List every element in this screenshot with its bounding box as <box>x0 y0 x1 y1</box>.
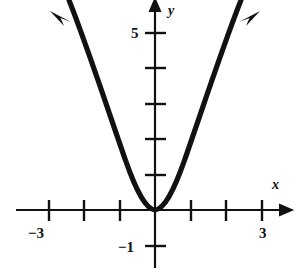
y-axis-label: y <box>168 4 174 18</box>
x-axis-label: x <box>272 178 279 192</box>
graph-figure: 5 −3 3 −1 x y <box>0 0 297 276</box>
parabola-left-arrowhead <box>50 11 71 26</box>
y-axis <box>145 10 166 268</box>
parabola-right-arrowhead <box>239 11 260 26</box>
coordinate-plane-svg <box>0 0 297 276</box>
x-axis-tick-label-3: 3 <box>259 226 267 241</box>
y-axis-tick-label-5: 5 <box>131 26 139 41</box>
x-axis-tick-label-neg3: −3 <box>28 226 44 241</box>
y-axis-tick-label-neg1: −1 <box>118 240 134 255</box>
